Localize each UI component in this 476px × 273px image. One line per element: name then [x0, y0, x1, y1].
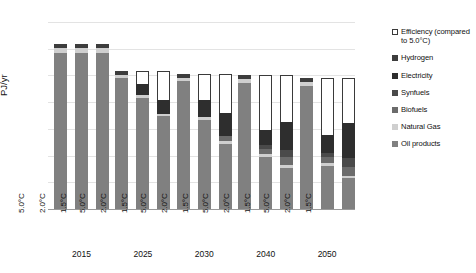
bar-2050-5.0C[interactable]: [300, 78, 313, 209]
bar-segment-electricity: [136, 84, 149, 94]
bar-segment-efficiency: [136, 71, 149, 84]
legend-label: Hydrogen: [401, 53, 433, 62]
legend-item-synfuels[interactable]: Synfuels: [392, 88, 476, 97]
legend-swatch-icon: [392, 29, 398, 35]
bar-segment-efficiency: [342, 78, 355, 123]
bar-segment-electricity: [342, 123, 355, 158]
bar-segment-biofuels: [280, 157, 293, 165]
legend-item-biofuels[interactable]: Biofuels: [392, 105, 476, 114]
legend-label: Oil products: [401, 139, 440, 148]
legend-label: Synfuels: [401, 88, 429, 97]
x-axis-year-label: 2025: [115, 249, 170, 259]
bar-group-2015: [54, 22, 109, 209]
legend-label: Electricity: [401, 71, 432, 80]
x-axis-scenario-label: 5.0°C: [201, 193, 210, 213]
bar-2050-1.5C[interactable]: [342, 78, 355, 209]
bar-2040-1.5C[interactable]: [280, 75, 293, 209]
bar-2025-2.0C[interactable]: [136, 71, 149, 209]
bar-2025-5.0C[interactable]: [115, 71, 128, 209]
x-axis-scenario-label: 5.0°C: [262, 193, 271, 213]
bar-segment-oil: [54, 53, 67, 209]
bar-segment-oil: [75, 53, 88, 209]
bar-segment-electricity: [198, 100, 211, 117]
x-axis-scenario-label: 1.5°C: [120, 193, 129, 213]
bar-segment-electricity: [219, 113, 232, 136]
legend-swatch-icon: [392, 73, 398, 79]
bar-segment-electricity: [321, 135, 334, 153]
bar-segment-efficiency: [321, 78, 334, 135]
x-axis-scenario-label: 5.0°C: [78, 193, 87, 213]
legend-swatch-icon: [392, 107, 398, 113]
x-axis-year-label: 2050: [300, 249, 355, 259]
bar-2030-5.0C[interactable]: [177, 74, 190, 209]
bar-segment-electricity: [280, 122, 293, 150]
x-axis-scenario-label: 5.0°C: [17, 193, 26, 213]
x-axis-year-label: 2040: [238, 249, 293, 259]
bar-segment-efficiency: [219, 74, 232, 113]
legend-item-efficiency[interactable]: Efficiency (compared to 5.0°C): [392, 27, 476, 45]
bar-2040-2.0C[interactable]: [259, 75, 272, 209]
legend-item-electricity[interactable]: Electricity: [392, 71, 476, 80]
legend-item-oil[interactable]: Oil products: [392, 139, 476, 148]
legend-swatch-icon: [392, 55, 398, 61]
x-axis-scenario-label: 1.5°C: [59, 193, 68, 213]
x-axis-scenario-label: 5.0°C: [139, 193, 148, 213]
bar-group-2040: [238, 22, 293, 209]
bar-segment-efficiency: [259, 75, 272, 130]
chart-legend: Efficiency (compared to 5.0°C)HydrogenEl…: [392, 27, 476, 157]
bar-2030-2.0C[interactable]: [198, 74, 211, 209]
bar-segment-oil: [96, 53, 109, 209]
bar-segment-oil: [177, 81, 190, 209]
bar-2030-1.5C[interactable]: [219, 74, 232, 209]
bar-segment-efficiency: [280, 75, 293, 121]
y-axis-label: PJ/yr: [0, 74, 9, 96]
chart-root: PJ/yr 01,0002,0003,0004,0005,0006,0007,0…: [0, 0, 476, 273]
bar-group-2025: [115, 22, 170, 209]
bar-segment-efficiency: [157, 71, 170, 100]
bar-2025-1.5C[interactable]: [157, 71, 170, 209]
x-axis-scenario-label: 1.5°C: [181, 193, 190, 213]
legend-item-natural[interactable]: Natural Gas: [392, 122, 476, 131]
bar-2050-2.0C[interactable]: [321, 78, 334, 209]
bar-segment-oil: [321, 166, 334, 209]
x-axis-year-label: 2015: [54, 249, 109, 259]
legend-item-hydrogen[interactable]: Hydrogen: [392, 53, 476, 62]
bar-segment-oil: [300, 86, 313, 209]
legend-label: Biofuels: [401, 105, 427, 114]
plot-area: 01,0002,0003,0004,0005,0006,0007,000: [48, 22, 355, 209]
bar-2040-5.0C[interactable]: [238, 75, 251, 209]
bar-2015-1.5C[interactable]: [96, 44, 109, 209]
bar-segment-efficiency: [198, 74, 211, 100]
x-axis-scenario-label: 2.0°C: [283, 193, 292, 213]
bar-2015-5.0C[interactable]: [54, 44, 67, 209]
bar-2015-2.0C[interactable]: [75, 44, 88, 209]
bar-group-2050: [300, 22, 355, 209]
figure-caption: [6, 265, 476, 273]
legend-label: Efficiency (compared to 5.0°C): [401, 27, 476, 45]
x-axis-scenario-label: 2.0°C: [160, 193, 169, 213]
bar-segment-oil: [342, 178, 355, 209]
bar-segment-electricity: [259, 130, 272, 145]
legend-swatch-icon: [392, 124, 398, 130]
bar-segment-oil: [115, 78, 128, 209]
x-axis-scenario-label: 1.5°C: [304, 193, 313, 213]
bar-segment-synfuels: [342, 158, 355, 167]
legend-label: Natural Gas: [401, 122, 440, 131]
x-axis-year-label: 2030: [177, 249, 232, 259]
bar-segment-electricity: [157, 100, 170, 114]
x-axis-scenario-label: 2.0°C: [38, 193, 47, 213]
bar-group-2030: [177, 22, 232, 209]
legend-swatch-icon: [392, 141, 398, 147]
x-axis-scenario-label: 1.5°C: [243, 193, 252, 213]
legend-swatch-icon: [392, 90, 398, 96]
bar-segment-biofuels: [342, 167, 355, 176]
x-axis-scenario-label: 2.0°C: [99, 193, 108, 213]
bar-segment-synfuels: [280, 150, 293, 157]
x-axis-scenario-label: 2.0°C: [222, 193, 231, 213]
bar-segment-oil: [238, 83, 251, 209]
